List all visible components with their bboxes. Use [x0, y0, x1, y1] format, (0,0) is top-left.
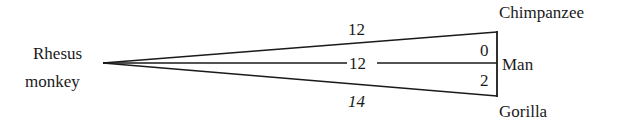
value-chimpanzee-man: 0	[480, 41, 489, 60]
value-rhesus-man: 12	[349, 54, 366, 73]
value-rhesus-gorilla: 14	[348, 92, 366, 111]
value-man-gorilla: 2	[480, 71, 489, 90]
label-rhesus-line2: monkey	[25, 72, 80, 91]
label-gorilla: Gorilla	[499, 102, 548, 121]
edge-rhesus-gorilla	[103, 63, 497, 96]
label-man: Man	[502, 55, 534, 74]
value-rhesus-chimpanzee: 12	[348, 20, 365, 39]
label-rhesus-line1: Rhesus	[33, 44, 82, 63]
label-chimpanzee: Chimpanzee	[499, 3, 584, 22]
edge-rhesus-chimpanzee	[103, 32, 497, 63]
distance-diagram: Rhesus monkey Chimpanzee Man Gorilla 12 …	[0, 0, 644, 125]
